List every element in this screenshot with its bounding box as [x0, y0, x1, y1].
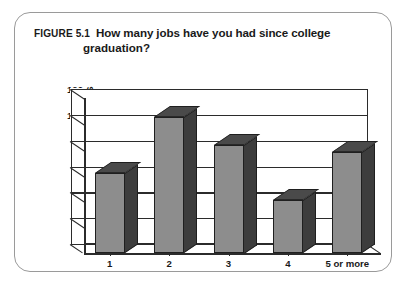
- x-axis-tick-mark: [169, 253, 170, 256]
- bar: [332, 152, 362, 253]
- bar-front-face: [332, 152, 362, 253]
- gridline: [71, 89, 368, 90]
- x-axis-tick-label: 4: [285, 258, 290, 269]
- caption-line-1: FIGURE 5.1 How many jobs have you had si…: [34, 26, 364, 39]
- x-axis-tick-mark: [347, 253, 348, 256]
- bar-front-face: [154, 117, 184, 253]
- x-axis-tick-label: 2: [166, 258, 171, 269]
- x-axis-line: [84, 253, 381, 255]
- x-axis-tick-mark: [229, 253, 230, 256]
- bar-chart: 020406080100120 SURVEY PARTICIPANTS 1234…: [61, 81, 381, 267]
- figure-caption: FIGURE 5.1 How many jobs have you had si…: [34, 26, 364, 54]
- bar-side-face: [125, 164, 138, 253]
- bar: [154, 117, 184, 253]
- caption-title-line-1: How many jobs have you had since college: [96, 26, 330, 39]
- bar: [273, 200, 303, 253]
- bar-side-face: [303, 191, 316, 253]
- plot-area: 12345 or more: [84, 98, 381, 253]
- x-axis-tick-label: 3: [226, 258, 231, 269]
- y-axis-line: [84, 98, 86, 254]
- bar: [95, 173, 125, 253]
- x-axis-tick-mark: [288, 253, 289, 256]
- caption-title-line-2: graduation?: [34, 41, 364, 54]
- bar-front-face: [273, 200, 303, 253]
- figure-number-label: FIGURE 5.1: [34, 28, 90, 39]
- x-axis-tick-mark: [110, 253, 111, 256]
- bar-front-face: [214, 145, 244, 254]
- bar-side-face: [184, 109, 197, 253]
- gridline: [71, 115, 368, 116]
- bar-front-face: [95, 173, 125, 253]
- x-axis-tick-label: 1: [107, 258, 112, 269]
- bar-side-face: [244, 136, 257, 253]
- x-axis-tick-label: 5 or more: [325, 258, 369, 269]
- bar-side-face: [362, 143, 375, 253]
- bar: [214, 145, 244, 254]
- figure-box: FIGURE 5.1 How many jobs have you had si…: [14, 12, 392, 272]
